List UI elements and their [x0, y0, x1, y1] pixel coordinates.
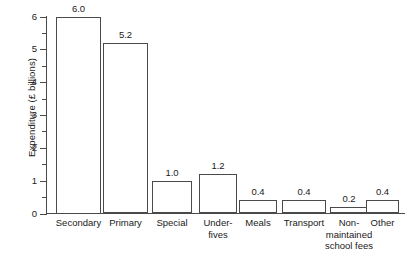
y-tick-minor: [42, 197, 47, 198]
y-tick-minor: [42, 33, 47, 34]
bar[interactable]: [366, 200, 399, 213]
y-tick-major: [40, 49, 47, 50]
bar-value-label: 0.4: [284, 187, 324, 197]
bar[interactable]: [152, 181, 192, 214]
x-axis-category-label: Special: [143, 217, 201, 229]
bar-value-label: 1.0: [152, 168, 192, 178]
y-tick-label: 0: [1, 209, 37, 219]
y-tick-label: 2: [1, 143, 37, 153]
y-tick-major: [40, 115, 47, 116]
y-tick-label: 5: [1, 44, 37, 54]
bar[interactable]: [199, 174, 237, 213]
y-tick-label: 1: [1, 176, 37, 186]
y-tick-label: 6: [1, 12, 37, 22]
bar[interactable]: [239, 200, 277, 213]
bar-value-label: 6.0: [59, 4, 99, 14]
bar[interactable]: [56, 17, 101, 214]
y-tick-major: [40, 214, 47, 215]
bar-chart: Expenditure (£ billions) 0123456 6.0Seco…: [0, 0, 412, 262]
y-tick-label: 4: [1, 77, 37, 87]
y-tick-minor: [42, 164, 47, 165]
bar[interactable]: [330, 207, 368, 214]
bar-value-label: 0.4: [238, 187, 278, 197]
y-tick-major: [40, 148, 47, 149]
y-tick-label: 3: [1, 110, 37, 120]
y-tick-major: [40, 82, 47, 83]
y-tick-major: [40, 17, 47, 18]
bar-value-label: 1.2: [198, 161, 238, 171]
y-tick-minor: [42, 99, 47, 100]
y-tick-minor: [42, 131, 47, 132]
x-axis-category-label: Other: [357, 217, 409, 229]
bar[interactable]: [282, 200, 326, 213]
bar-value-label: 0.4: [363, 187, 403, 197]
y-tick-major: [40, 181, 47, 182]
bar-value-label: 5.2: [106, 30, 146, 40]
bar[interactable]: [103, 43, 148, 214]
y-tick-minor: [42, 66, 47, 67]
